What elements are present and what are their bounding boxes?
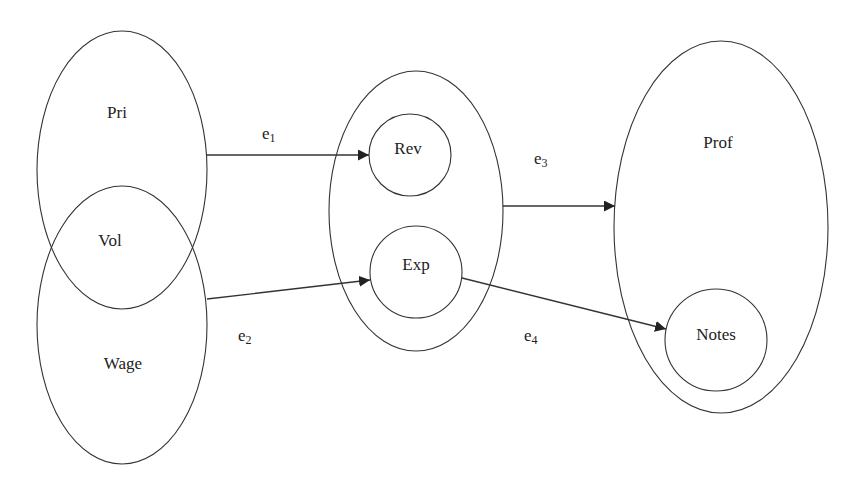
edge-e4 bbox=[462, 278, 666, 329]
label-wage: Wage bbox=[104, 354, 142, 373]
label-exp: Exp bbox=[402, 255, 429, 274]
label-prof: Prof bbox=[703, 133, 733, 152]
node-wage bbox=[37, 186, 207, 464]
label-e3: e3 bbox=[534, 149, 548, 170]
label-pri: Pri bbox=[107, 103, 127, 122]
node-pri bbox=[37, 31, 207, 309]
diagram-svg: Pri Vol Wage Rev Exp Prof Notes e1 e2 e3… bbox=[0, 0, 854, 490]
label-notes: Notes bbox=[696, 325, 736, 344]
node-prof bbox=[614, 41, 828, 413]
label-vol: Vol bbox=[98, 231, 122, 250]
label-e2: e2 bbox=[238, 326, 252, 347]
label-e4: e4 bbox=[524, 326, 538, 347]
diagram-canvas: Pri Vol Wage Rev Exp Prof Notes e1 e2 e3… bbox=[0, 0, 854, 490]
edge-e2 bbox=[207, 280, 370, 299]
label-rev: Rev bbox=[394, 139, 422, 158]
node-group-rev-exp bbox=[329, 71, 503, 351]
label-e1: e1 bbox=[262, 124, 276, 145]
